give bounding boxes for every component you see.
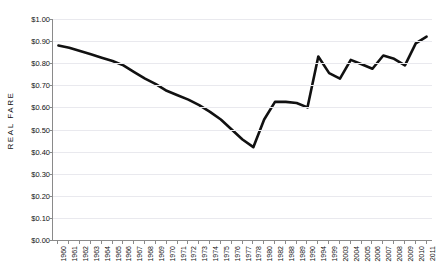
x-tick-mark [306,240,307,244]
plot-area [52,19,432,241]
x-tick-label: 1994 [320,246,327,262]
x-tick-label: 1963 [93,246,100,262]
y-tick-label: $0.80 [31,59,50,68]
x-tick-label: 2004 [353,246,360,262]
x-tick-label: 1971 [180,246,187,262]
y-tick-mark [49,196,53,197]
x-tick-label: 1973 [201,246,208,262]
x-tick-label: 1964 [104,246,111,262]
gridline [53,107,432,108]
x-tick-mark [57,240,58,244]
y-tick-mark [49,107,53,108]
y-axis-title: REAL FARE [0,0,20,240]
y-tick-label: $0.30 [31,169,50,178]
x-tick-mark [339,240,340,244]
x-tick-label: 1965 [115,246,122,262]
x-tick-mark [177,240,178,244]
x-tick-mark [285,240,286,244]
y-tick-mark [49,218,53,219]
y-tick-label: $0.60 [31,103,50,112]
x-tick-label: 1962 [82,246,89,262]
real-fare-series-line [58,37,426,147]
y-tick-mark [49,85,53,86]
y-tick-mark [49,174,53,175]
y-axis-tick-labels: $1.00$0.90$0.80$0.70$0.60$0.50$0.40$0.30… [18,0,52,274]
gridline [53,174,432,175]
y-tick-label: $0.90 [31,37,50,46]
gridline [53,63,432,64]
x-tick-label: 2006 [374,246,381,262]
x-tick-mark [317,240,318,244]
x-tick-mark [371,240,372,244]
x-tick-mark [122,240,123,244]
x-tick-mark [68,240,69,244]
x-tick-mark [198,240,199,244]
x-tick-label: 2009 [407,246,414,262]
x-tick-mark [231,240,232,244]
x-tick-mark [350,240,351,244]
x-tick-label: 1976 [234,246,241,262]
x-tick-mark [296,240,297,244]
x-tick-label: 2011 [429,246,436,261]
x-tick-mark [252,240,253,244]
x-tick-mark [187,240,188,244]
x-tick-label: 1972 [190,246,197,262]
x-tick-label: 1988 [288,246,295,262]
x-tick-label: 1966 [125,246,132,262]
x-tick-mark [242,240,243,244]
x-tick-label: 1999 [331,246,338,262]
x-tick-label: 2008 [396,246,403,262]
gridline [53,196,432,197]
x-tick-label: 1967 [136,246,143,262]
y-tick-label: $0.40 [31,147,50,156]
y-tick-label: $1.00 [31,15,50,24]
x-tick-mark [274,240,275,244]
x-tick-label: 1974 [212,246,219,262]
y-axis-title-label: REAL FARE [6,91,15,149]
x-tick-label: 1977 [245,246,252,262]
x-tick-label: 2005 [364,246,371,262]
y-tick-label: $0.50 [31,125,50,134]
x-tick-mark [361,240,362,244]
x-tick-mark [393,240,394,244]
y-tick-mark [49,41,53,42]
x-tick-mark [263,240,264,244]
y-tick-mark [49,130,53,131]
x-tick-mark [209,240,210,244]
x-tick-label: 1989 [299,246,306,262]
x-tick-label: 2010 [418,246,425,262]
gridline [53,152,432,153]
x-tick-mark [220,240,221,244]
x-tick-label: 1990 [309,246,316,262]
x-tick-mark [426,240,427,244]
x-tick-mark [328,240,329,244]
x-tick-label: 1960 [60,246,67,262]
x-tick-mark [382,240,383,244]
x-tick-label: 1968 [147,246,154,262]
x-tick-mark [166,240,167,244]
x-axis: 1960196119621963196419651966196719681969… [52,240,431,274]
y-tick-label: $0.10 [31,213,50,222]
y-tick-mark [49,19,53,20]
x-tick-label: 1975 [223,246,230,262]
x-tick-mark [133,240,134,244]
x-tick-label: 1969 [158,246,165,262]
x-tick-label: 1961 [71,246,78,262]
gridline [53,41,432,42]
x-tick-label: 1982 [277,246,284,262]
x-tick-mark [90,240,91,244]
y-tick-label: $0.70 [31,81,50,90]
y-tick-label: $0.20 [31,191,50,200]
gridline [53,130,432,131]
x-tick-mark [79,240,80,244]
x-tick-label: 2007 [385,246,392,262]
y-tick-label: $0.00 [31,236,50,245]
gridline [53,218,432,219]
real-fare-line-chart: REAL FARE $1.00$0.90$0.80$0.70$0.60$0.50… [0,0,443,274]
y-tick-mark [49,152,53,153]
x-tick-mark [112,240,113,244]
x-tick-mark [144,240,145,244]
x-tick-mark [101,240,102,244]
x-tick-mark [415,240,416,244]
x-tick-label: 1980 [266,246,273,262]
